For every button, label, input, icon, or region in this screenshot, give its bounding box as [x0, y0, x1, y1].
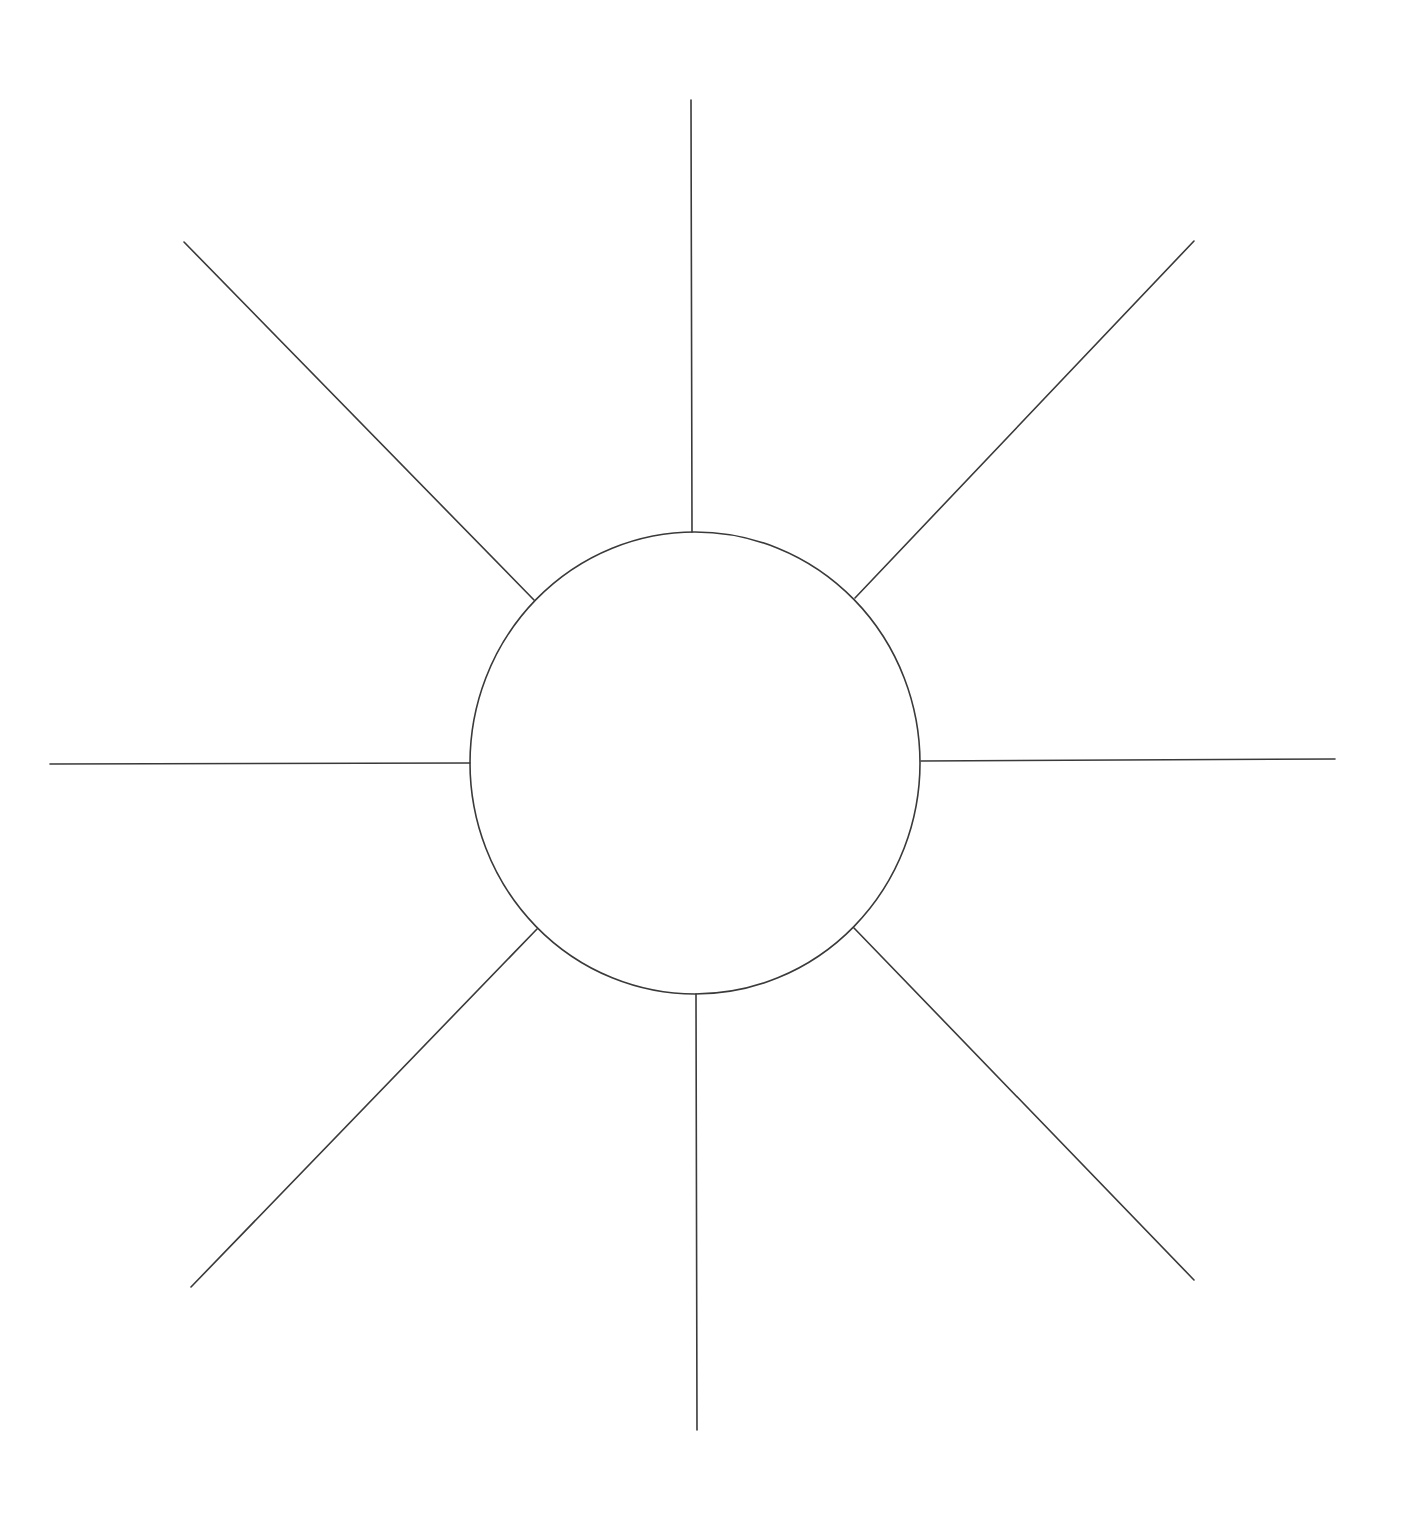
spoke-bottom	[696, 994, 697, 1430]
spoke-top	[691, 100, 692, 532]
spoke-top-right	[855, 241, 1194, 598]
spoke-bottom-right	[854, 928, 1194, 1280]
spokes-group	[50, 100, 1335, 1430]
spoke-top-left	[184, 242, 534, 600]
center-circle	[470, 532, 920, 994]
spoke-left	[50, 763, 470, 764]
spoke-bottom-left	[191, 929, 537, 1287]
sunburst-diagram	[0, 0, 1407, 1526]
diagram-canvas	[0, 0, 1407, 1526]
spoke-right	[921, 759, 1335, 761]
